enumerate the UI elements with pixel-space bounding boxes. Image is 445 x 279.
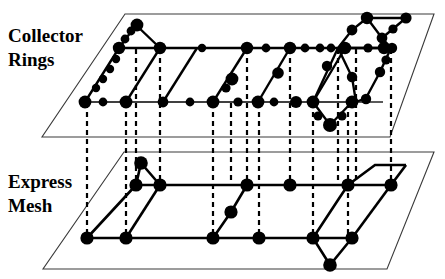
- node: [198, 44, 206, 52]
- node: [113, 42, 125, 54]
- node: [120, 96, 133, 109]
- collector-rings-label-line2: Rings: [8, 49, 54, 70]
- node: [384, 178, 397, 191]
- node: [387, 43, 397, 53]
- node: [337, 111, 346, 120]
- node: [290, 96, 302, 108]
- node: [119, 231, 132, 244]
- node: [112, 55, 120, 63]
- node: [153, 178, 166, 191]
- node: [284, 42, 296, 54]
- node: [347, 25, 358, 36]
- node: [345, 231, 358, 244]
- node: [323, 118, 337, 132]
- node: [327, 44, 336, 53]
- diagram-canvas: Collector Rings Express Mesh: [0, 0, 445, 279]
- node: [252, 231, 265, 244]
- node: [347, 72, 357, 82]
- network-topology-figure: Collector Rings Express Mesh: [0, 0, 445, 279]
- express-mesh-network: [80, 156, 406, 272]
- express-mesh-label-line1: Express: [8, 171, 72, 192]
- node: [79, 96, 92, 109]
- ring-4-left-arc: [313, 48, 338, 102]
- node: [316, 44, 325, 53]
- node: [388, 24, 397, 33]
- collector-rings-network: [79, 12, 412, 132]
- collector-ring-3: [258, 48, 345, 102]
- node: [240, 178, 253, 191]
- express-left-return: [126, 185, 160, 238]
- node: [241, 42, 253, 54]
- inter-plane-connectors: [87, 49, 391, 238]
- node: [106, 65, 114, 73]
- node: [377, 33, 388, 44]
- node: [361, 12, 373, 24]
- ring-2-diagonal: [163, 48, 197, 102]
- node: [233, 97, 242, 106]
- node: [339, 42, 351, 54]
- node: [224, 205, 237, 218]
- node: [361, 94, 371, 104]
- node: [154, 42, 166, 54]
- node: [131, 19, 144, 32]
- collector-lower-row-nodes: [79, 94, 372, 109]
- collector-backbone-lines: [83, 48, 392, 102]
- layer-labels: Collector Rings Express Mesh: [8, 25, 83, 216]
- express-chain-nodes: [134, 156, 337, 272]
- node: [322, 61, 332, 71]
- node: [186, 98, 195, 107]
- node: [221, 83, 230, 92]
- node: [363, 43, 372, 52]
- express-mesh-label-line2: Mesh: [8, 195, 53, 216]
- node: [158, 97, 169, 108]
- node: [381, 55, 390, 64]
- node: [272, 67, 284, 79]
- node: [375, 67, 385, 77]
- collector-chain-nodes: [92, 12, 412, 132]
- collector-rings-label-line1: Collector: [8, 25, 83, 46]
- node: [99, 98, 108, 107]
- ring-1-return: [126, 48, 160, 102]
- node: [400, 12, 411, 23]
- node: [121, 35, 130, 44]
- express-right-diagonal: [313, 185, 348, 238]
- express-right-vert: [352, 185, 391, 238]
- node: [252, 96, 265, 109]
- node: [346, 96, 359, 109]
- node: [226, 73, 239, 86]
- node: [206, 231, 219, 244]
- node: [134, 156, 148, 170]
- node: [92, 84, 100, 92]
- node: [80, 231, 93, 244]
- node: [313, 111, 322, 120]
- express-mesh-plane-outline: [43, 152, 434, 269]
- node: [99, 75, 107, 83]
- node: [129, 178, 142, 191]
- node: [301, 44, 310, 53]
- node: [323, 258, 337, 272]
- node: [270, 98, 279, 107]
- plane-outlines: [42, 14, 434, 269]
- express-lower-row-nodes: [80, 231, 358, 244]
- node: [283, 178, 296, 191]
- node: [207, 96, 220, 109]
- node: [262, 44, 271, 53]
- node: [307, 96, 320, 109]
- node: [306, 231, 319, 244]
- node: [341, 178, 354, 191]
